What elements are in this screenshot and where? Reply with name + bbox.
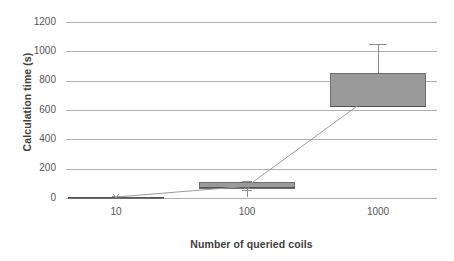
- whisker-cap-upper-1000: [369, 44, 387, 45]
- box-1000: [330, 73, 426, 107]
- y-tick-label: 800: [0, 74, 56, 85]
- y-tick-label: 0: [0, 192, 56, 203]
- y-tick-label: 1000: [0, 45, 56, 56]
- x-tick-label-1000: 1000: [338, 206, 418, 217]
- chart-figure: Calculation time (s) Number of queried c…: [0, 0, 454, 261]
- plot-area: [66, 22, 437, 198]
- boxplot-group-1000: [66, 22, 437, 198]
- x-tick-label-10: 10: [76, 206, 156, 217]
- y-tick-label: 1200: [0, 16, 56, 27]
- whisker-stem-upper-1000: [378, 44, 379, 77]
- x-axis-title: Number of queried coils: [66, 238, 437, 250]
- x-tick-label-100: 100: [207, 206, 287, 217]
- y-tick-label: 400: [0, 133, 56, 144]
- y-tick-label: 200: [0, 162, 56, 173]
- median-1000: [330, 106, 426, 107]
- y-tick-label: 600: [0, 104, 56, 115]
